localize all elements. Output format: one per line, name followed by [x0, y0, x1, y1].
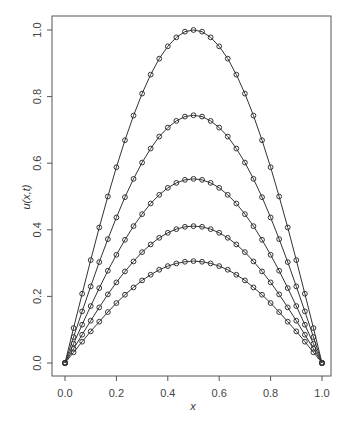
series-line — [65, 115, 322, 363]
series-line — [65, 261, 322, 363]
y-tick-label: 0.4 — [31, 222, 43, 237]
x-tick-label: 0.4 — [160, 387, 175, 399]
series-t3 — [63, 224, 325, 366]
x-axis: 0.00.20.40.60.81.0 — [57, 376, 329, 399]
plot-frame — [52, 16, 331, 376]
series-line — [65, 226, 322, 363]
series-layer — [63, 28, 325, 366]
line-chart: 0.00.20.40.60.81.0 0.00.20.40.60.81.0 x … — [0, 0, 351, 426]
x-axis-label: x — [189, 400, 196, 412]
series-line — [65, 30, 322, 363]
series-t0 — [63, 28, 325, 366]
y-tick-label: 0.0 — [31, 355, 43, 370]
series-t4 — [63, 259, 325, 366]
y-axis-label: u(x,t) — [20, 184, 32, 209]
x-tick-label: 0.0 — [57, 387, 72, 399]
x-tick-label: 0.8 — [263, 387, 278, 399]
series-line — [65, 179, 322, 363]
y-tick-label: 0.6 — [31, 156, 43, 171]
x-tick-label: 0.2 — [109, 387, 124, 399]
y-axis: 0.00.20.40.60.81.0 — [31, 22, 52, 370]
series-t1 — [63, 113, 325, 366]
y-tick-label: 1.0 — [31, 22, 43, 37]
x-tick-label: 0.6 — [212, 387, 227, 399]
x-tick-label: 1.0 — [314, 387, 329, 399]
series-t2 — [63, 176, 325, 365]
y-tick-label: 0.2 — [31, 289, 43, 304]
y-tick-label: 0.8 — [31, 89, 43, 104]
